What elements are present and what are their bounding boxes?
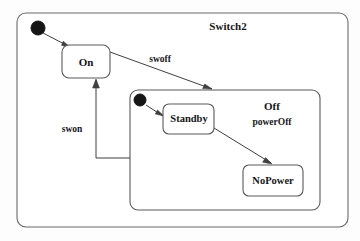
outer-state-title: Switch2	[209, 21, 246, 32]
transition-label-poweroff: powerOff	[252, 118, 291, 128]
state-nopower-label: NoPower	[252, 176, 293, 187]
composite-state-off-title: Off	[264, 101, 280, 112]
transition-label-swoff: swoff	[149, 55, 171, 65]
transition-label-swon: swon	[62, 125, 83, 135]
state-on-label: On	[79, 57, 94, 68]
initial-pseudostate-outer-icon[interactable]	[31, 21, 45, 35]
initial-pseudostate-off-icon[interactable]	[134, 94, 146, 106]
state-standby-label: Standby	[170, 114, 207, 125]
state-diagram-canvas: Switch2 On Standby NoPower Off swoff swo…	[0, 0, 360, 241]
